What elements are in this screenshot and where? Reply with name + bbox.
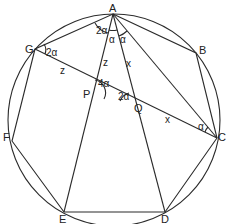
segment-label-AQ: x [126,58,131,69]
vertex-label-A: A [109,2,117,14]
point-label-Q: Q [134,102,143,114]
heptagon-diagram: A B C D E F G P Q 2α α α 2α 4α 2α α z z … [0,0,227,224]
vertex-label-D: D [161,213,169,224]
vertex-label-E: E [59,213,66,224]
angle-label-A-a1: α [109,34,115,45]
angle-label-A-a2: α [120,34,126,45]
circumcircle [8,14,220,224]
vertex-label-B: B [199,44,206,56]
angle-arc-A-a1 [109,30,117,31]
angle-label-Q: 2α [118,91,130,102]
diagram-canvas: A B C D E F G P Q 2α α α 2α 4α 2α α z z … [0,0,227,224]
segment-label-GP: z [60,65,65,76]
angle-label-A-2a: 2α [96,25,108,36]
angle-arc-C [205,127,208,132]
segment-label-QC: x [165,114,170,125]
angle-label-G: 2α [46,47,58,58]
vertex-label-F: F [3,131,10,143]
angle-label-P: 4α [98,78,110,89]
angle-label-C: α [198,121,204,132]
vertex-label-C: C [218,131,226,143]
vertex-label-G: G [25,43,34,55]
diagonal-A-E [64,14,113,212]
point-label-P: P [83,88,90,100]
segment-label-AP: z [103,57,108,68]
